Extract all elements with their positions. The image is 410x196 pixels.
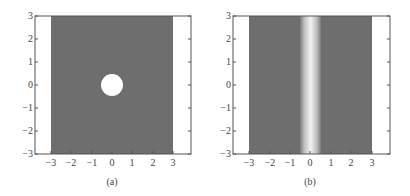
svg-text:0: 0 <box>110 157 115 168</box>
svg-text:−3: −3 <box>22 148 33 159</box>
caption-a: (a) <box>92 176 132 187</box>
panel-b: 3 2 1 0 −1 −2 −3 −3 −2 −1 0 1 2 3 (b) <box>205 0 410 196</box>
svg-text:1: 1 <box>130 157 135 168</box>
heatmap-plot-b: 3 2 1 0 −1 −2 −3 −3 −2 −1 0 1 2 3 <box>205 0 410 196</box>
svg-text:−2: −2 <box>22 125 33 136</box>
svg-text:0: 0 <box>308 157 313 168</box>
svg-text:−1: −1 <box>220 102 231 113</box>
svg-text:2: 2 <box>226 33 231 44</box>
circle-feature <box>101 74 123 96</box>
x-tick-labels-a: −3 −2 −1 0 1 2 3 <box>46 157 176 168</box>
svg-text:3: 3 <box>370 157 375 168</box>
svg-text:1: 1 <box>329 157 334 168</box>
y-tick-labels-a: 3 2 1 0 −1 −2 −3 <box>22 10 33 159</box>
svg-text:1: 1 <box>226 56 231 67</box>
x-tick-labels-b: −3 −2 −1 0 1 2 3 <box>244 157 375 168</box>
svg-text:1: 1 <box>28 56 33 67</box>
svg-text:2: 2 <box>151 157 156 168</box>
svg-text:−3: −3 <box>244 157 255 168</box>
svg-text:−2: −2 <box>220 125 231 136</box>
svg-text:0: 0 <box>28 79 33 90</box>
svg-text:3: 3 <box>28 10 33 21</box>
heatmap-plot-a: 3 2 1 0 −1 −2 −3 −3 −2 −1 0 1 2 3 <box>0 0 205 196</box>
svg-text:3: 3 <box>226 10 231 21</box>
svg-text:−1: −1 <box>285 157 296 168</box>
svg-text:−3: −3 <box>220 148 231 159</box>
svg-text:−3: −3 <box>46 157 57 168</box>
svg-text:−1: −1 <box>87 157 98 168</box>
svg-text:2: 2 <box>349 157 354 168</box>
caption-b: (b) <box>290 176 330 187</box>
y-tick-labels-b: 3 2 1 0 −1 −2 −3 <box>220 10 231 159</box>
svg-text:−1: −1 <box>22 102 33 113</box>
svg-text:−2: −2 <box>66 157 77 168</box>
svg-text:0: 0 <box>226 79 231 90</box>
panel-a: 3 2 1 0 −1 −2 −3 −3 −2 −1 0 1 2 3 (a) <box>0 0 205 196</box>
svg-text:−2: −2 <box>265 157 276 168</box>
band-feature <box>300 16 321 154</box>
svg-text:3: 3 <box>171 157 176 168</box>
svg-text:2: 2 <box>28 33 33 44</box>
